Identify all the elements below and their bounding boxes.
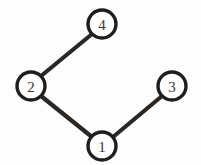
graph-canvas: 1 2 3 4	[0, 0, 201, 165]
node-label-4: 4	[98, 17, 106, 33]
edge-layer	[41, 34, 162, 137]
graph-node-2[interactable]: 2	[17, 72, 45, 100]
graph-edge-2-4	[41, 34, 92, 76]
graph-edge-1-3	[113, 96, 162, 137]
node-label-2: 2	[27, 79, 35, 95]
node-layer: 1 2 3 4	[17, 10, 186, 160]
graph-node-3[interactable]: 3	[158, 72, 186, 100]
graph-node-1[interactable]: 1	[88, 132, 116, 160]
graph-node-4[interactable]: 4	[88, 10, 116, 38]
node-label-3: 3	[168, 79, 176, 95]
graph-edge-2-1	[41, 96, 92, 137]
graph-figure: 1 2 3 4	[0, 0, 201, 165]
node-label-1: 1	[98, 139, 106, 155]
